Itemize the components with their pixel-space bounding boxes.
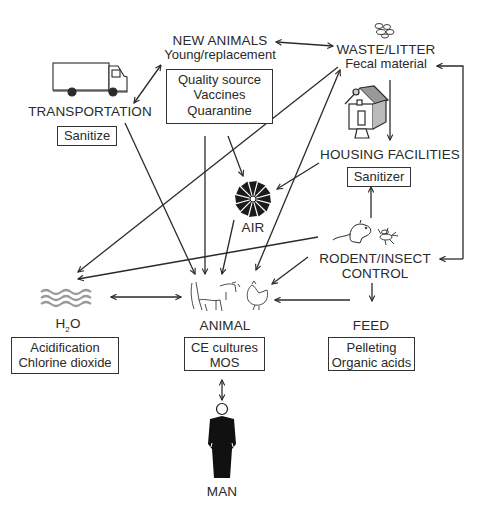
house-icon (345, 86, 388, 138)
measure-acidification: Acidification (17, 340, 113, 355)
edge-housing-air (277, 163, 319, 189)
cow-icon (191, 282, 240, 311)
measure-vaccines: Vaccines (172, 87, 267, 102)
edge-rodent-waste (437, 66, 463, 259)
measure-quality-source: Quality source (172, 72, 267, 87)
chicken-icon (247, 281, 267, 310)
measure-sanitize: Sanitize (62, 128, 112, 143)
feed-measures-box: Pelleting Organic acids (328, 337, 415, 371)
water-title-h: H (55, 316, 65, 331)
edge-newanimals-air (228, 136, 243, 176)
animal-measures-box: CE cultures MOS (184, 337, 265, 371)
water-waves-icon (41, 290, 91, 306)
rodent-icon (333, 220, 371, 243)
water-title-o: O (70, 316, 81, 331)
water-measures-box: Acidification Chlorine dioxide (11, 337, 119, 374)
node-new-animals-title: NEW ANIMALS (155, 33, 285, 48)
measure-ce-cultures: CE cultures (190, 340, 259, 355)
node-man-title: MAN (200, 484, 244, 499)
node-transportation-title: TRANSPORTATION (25, 104, 155, 119)
person-icon (208, 404, 236, 479)
edge-rodent-animal (272, 257, 308, 284)
measure-pelleting: Pelleting (331, 340, 412, 355)
new-animals-measures-box: Quality source Vaccines Quarantine (166, 69, 273, 124)
node-housing-title: HOUSING FACILITIES (320, 147, 460, 162)
node-feed-title: FEED (345, 318, 397, 333)
edge-air-animal (222, 220, 234, 274)
node-waste-litter-subtitle: Fecal material (331, 57, 441, 72)
fan-icon (235, 181, 271, 217)
measure-quarantine: Quarantine (172, 103, 267, 118)
feces-icon (375, 24, 394, 39)
node-rodent-insect-title-line1: RODENT/INSECT (315, 251, 435, 266)
measure-chlorine-dioxide: Chlorine dioxide (17, 355, 113, 370)
housing-measures-box: Sanitizer (347, 167, 411, 187)
node-new-animals-subtitle: Young/replacement (155, 48, 285, 63)
node-waste-litter-title: WASTE/LITTER (331, 42, 441, 57)
node-animal-title: ANIMAL (190, 318, 260, 333)
measure-organic-acids: Organic acids (331, 355, 412, 370)
measure-mos: MOS (190, 355, 259, 370)
truck-icon (53, 63, 127, 96)
edge-transport-newanimals (134, 65, 161, 103)
measure-sanitizer: Sanitizer (352, 169, 406, 184)
edge-transport-animal (125, 123, 195, 274)
node-water-title: H2O (48, 316, 88, 335)
node-air-title: AIR (236, 220, 270, 235)
insect-icon (378, 228, 398, 245)
transportation-measures-box: Sanitize (57, 126, 117, 146)
node-rodent-insect-title-line2: CONTROL (315, 266, 435, 281)
